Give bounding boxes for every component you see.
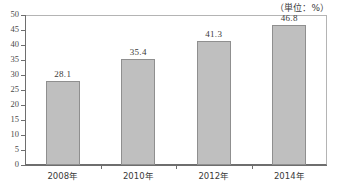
- y-axis-tick-label: 15: [11, 114, 20, 124]
- bar-value-label: 46.8: [264, 13, 314, 23]
- y-axis-line: [25, 15, 26, 166]
- y-axis-tick-label: 20: [11, 99, 20, 109]
- y-axis-tick-label: 45: [11, 24, 20, 34]
- bar: [197, 41, 231, 165]
- bar-value-label: 28.1: [38, 69, 88, 79]
- y-axis-tick-label: 0: [15, 159, 19, 169]
- y-axis-tick-label: 5: [15, 144, 19, 154]
- x-axis-line: [25, 165, 327, 166]
- y-axis-tick-label: 10: [11, 129, 20, 139]
- bar: [46, 81, 80, 165]
- x-axis-category-label: 2012年: [179, 169, 249, 181]
- bar-chart: （単位：%） 05101520253035404550 28.135.441.3…: [0, 0, 337, 188]
- y-axis-tick-label: 30: [11, 69, 20, 79]
- y-axis-tick-label: 35: [11, 54, 20, 64]
- y-axis-tick-label: 40: [11, 39, 20, 49]
- x-axis-category-label: 2008年: [28, 169, 98, 181]
- y-axis-tick-label: 25: [11, 84, 20, 94]
- y-axis-tick-label: 50: [11, 9, 20, 19]
- bar: [121, 59, 155, 165]
- bar-value-label: 41.3: [189, 29, 239, 39]
- x-axis-category-label: 2010年: [103, 169, 173, 181]
- bar: [272, 25, 306, 165]
- x-axis-category-label: 2014年: [254, 169, 324, 181]
- bar-value-label: 35.4: [113, 47, 163, 57]
